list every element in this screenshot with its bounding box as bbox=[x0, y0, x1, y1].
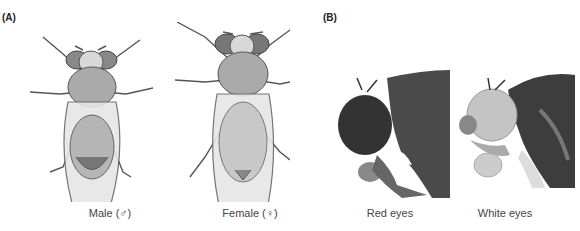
male-fly-illustration bbox=[28, 32, 153, 202]
white-eyes-caption: White eyes bbox=[460, 207, 550, 219]
red-eyes-photo bbox=[332, 70, 450, 198]
female-fly-illustration bbox=[175, 22, 290, 202]
red-eyes-caption: Red eyes bbox=[350, 207, 430, 219]
panel-b-label: (B) bbox=[323, 12, 337, 23]
white-eyes-photo bbox=[450, 70, 575, 188]
male-caption: Male (♂) bbox=[70, 207, 150, 219]
panel-a-label: (A) bbox=[2, 12, 16, 23]
female-caption: Female (♀) bbox=[210, 207, 290, 219]
